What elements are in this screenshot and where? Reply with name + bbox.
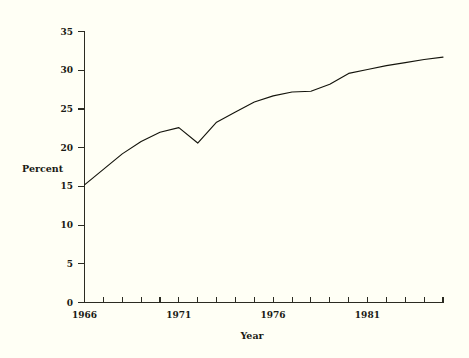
y-axis-title: Percent	[22, 163, 64, 174]
y-tick-label-5: 5	[67, 259, 73, 269]
x-axis-title: Year	[239, 330, 264, 341]
y-tick-label-15: 15	[60, 181, 73, 191]
chart-figure: 0 5 10 15 20 25 30 35 1966 1971 1976 198…	[0, 0, 469, 358]
y-tick-label-25: 25	[60, 104, 73, 114]
x-tick-label-1981: 1981	[355, 310, 380, 320]
y-tick-label-0: 0	[67, 298, 73, 308]
y-tick-label-20: 20	[60, 143, 73, 153]
x-tick-label-1966: 1966	[72, 310, 97, 320]
y-tick-label-10: 10	[60, 220, 73, 230]
y-tick-label-30: 30	[60, 65, 73, 75]
x-tick-label-1976: 1976	[261, 310, 286, 320]
y-tick-label-35: 35	[60, 27, 73, 37]
line-chart-canvas: 0 5 10 15 20 25 30 35 1966 1971 1976 198…	[0, 0, 469, 358]
x-tick-label-1971: 1971	[166, 310, 191, 320]
